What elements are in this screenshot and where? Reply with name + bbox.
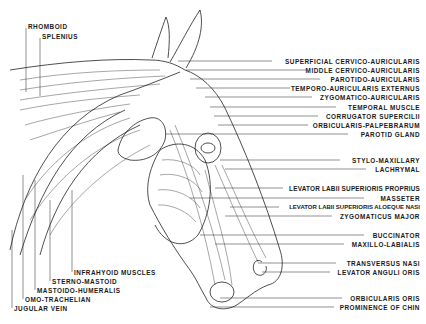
label-temporo-auricularis-externus: TEMPORO-AURICULARIS EXTERNUS bbox=[291, 85, 420, 92]
label-rhomboid: RHOMBOID bbox=[28, 23, 68, 30]
label-transversus-nasi: TRANSVERSUS NASI bbox=[347, 260, 420, 267]
label-infrahyoid-muscles: INFRAHYOID MUSCLES bbox=[74, 269, 156, 276]
label-superficial-cervico-auricularis: SUPERFICIAL CERVICO-AURICULARIS bbox=[285, 58, 420, 65]
label-mastoido-humeralis: MASTOIDO-HUMERALIS bbox=[37, 287, 120, 294]
label-zygomaticus-major: ZYGOMATICUS MAJOR bbox=[340, 213, 420, 220]
ear-right-icon bbox=[170, 10, 201, 68]
label-omo-trachelian: OMO-TRACHELIAN bbox=[25, 296, 91, 303]
label-sterno-mastoid: STERNO-MASTOID bbox=[52, 278, 117, 285]
label-zygomatico-auricularis: ZYGOMATICO-AURICULARIS bbox=[320, 94, 420, 101]
label-middle-cervico-auricularis: MIDDLE CERVICO-AURICULARIS bbox=[306, 67, 420, 74]
label-jugular-vein: JUGULAR VEIN bbox=[14, 305, 68, 312]
label-corrugator-supercilii: CORRUGATOR SUPERCILII bbox=[326, 113, 420, 120]
label-stylo-maxillary: STYLO-MAXILLARY bbox=[352, 157, 420, 164]
label-levator-labii-superioris-aloeque-nasi: LEVATOR LABII SUPERIORIS ALOEQUE NASI bbox=[289, 204, 420, 211]
label-splenius: SPLENIUS bbox=[42, 33, 78, 40]
label-orbicularis-oris: ORBICULARIS ORIS bbox=[350, 295, 420, 302]
label-parotid-gland: PAROTID GLAND bbox=[361, 131, 420, 138]
label-levator-labii-superioris-proprius: LEVATOR LABII SUPERIORIS PROPRIUS bbox=[289, 185, 420, 192]
label-masseter: MASSETER bbox=[380, 195, 420, 202]
label-orbicularis-palpebrarum: ORBICULARIS-PALPEBRARUM bbox=[313, 122, 420, 129]
label-temporal-muscle: TEMPORAL MUSCLE bbox=[348, 104, 420, 111]
label-maxillo-labialis: MAXILLO-LABIALIS bbox=[352, 241, 420, 248]
label-buccinator: BUCCINATOR bbox=[373, 232, 420, 239]
anatomy-figure: RHOMBOID SPLENIUS SUPERFICIAL CERVICO-AU… bbox=[0, 0, 426, 324]
label-levator-anguli-oris: LEVATOR ANGULI ORIS bbox=[338, 269, 420, 276]
label-prominence-of-chin: PROMINENCE OF CHIN bbox=[340, 304, 420, 311]
label-lachrymal: LACHRYMAL bbox=[375, 166, 420, 173]
label-parotido-auricularis: PAROTIDO-AURICULARIS bbox=[331, 76, 420, 83]
ear-left-icon bbox=[152, 17, 169, 58]
